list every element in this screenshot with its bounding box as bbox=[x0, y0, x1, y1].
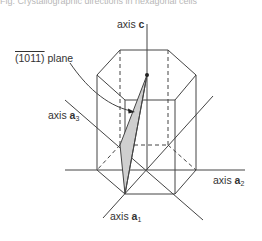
miller-index: (1011) bbox=[15, 52, 45, 64]
bottom-hexagon-front bbox=[97, 170, 196, 194]
plane-apex-dot bbox=[145, 73, 149, 77]
plane-pointer-arrow bbox=[70, 63, 131, 111]
axis-a3-label: axis a3 bbox=[48, 110, 79, 122]
hexagonal-cell-diagram bbox=[0, 0, 262, 241]
plane-label: (1011) plane bbox=[15, 53, 73, 64]
axis-c-label: axis c bbox=[117, 19, 144, 30]
plane-1011 bbox=[120, 75, 147, 194]
axis-a2-label: axis a2 bbox=[213, 175, 244, 187]
axis-a1-label: axis a1 bbox=[110, 211, 141, 223]
